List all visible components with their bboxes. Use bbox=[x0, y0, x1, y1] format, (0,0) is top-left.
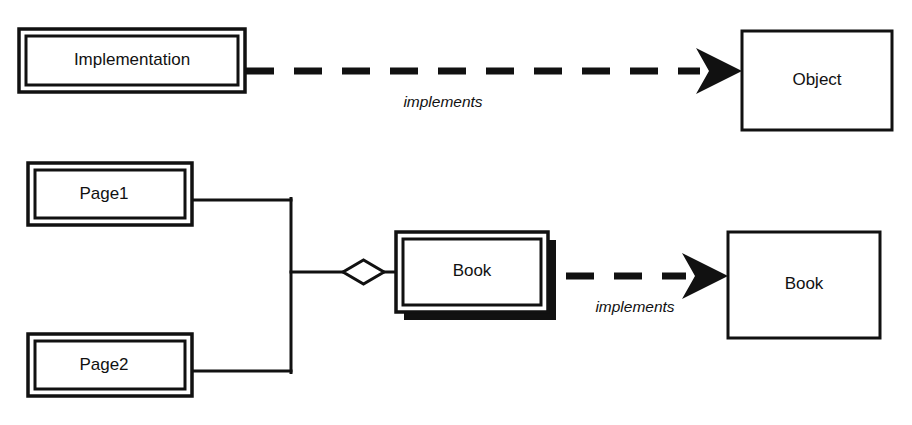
node-label-implementation: Implementation bbox=[74, 50, 190, 69]
solid-arrowhead-icon-bottom bbox=[682, 253, 728, 299]
node-implementation[interactable]: Implementation bbox=[19, 29, 245, 92]
node-label-book-interface: Book bbox=[785, 274, 824, 293]
node-label-book-implementation: Book bbox=[453, 261, 492, 280]
edge-aggregation-connectors bbox=[192, 199, 396, 373]
node-object[interactable]: Object bbox=[742, 31, 892, 130]
node-book-interface[interactable]: Book bbox=[728, 232, 880, 338]
node-label-page2: Page2 bbox=[79, 355, 128, 374]
node-page1[interactable]: Page1 bbox=[28, 163, 192, 225]
edge-label-implements-top: implements bbox=[403, 93, 482, 110]
node-book-implementation[interactable]: Book bbox=[396, 232, 556, 320]
open-diamond-aggregation-icon bbox=[343, 260, 384, 284]
solid-arrowhead-icon bbox=[696, 48, 742, 94]
diagram-svg: implements Implementation Object bbox=[0, 0, 912, 425]
edge-implements-top: implements bbox=[246, 48, 742, 110]
node-page2[interactable]: Page2 bbox=[28, 334, 192, 396]
node-label-object: Object bbox=[792, 70, 841, 89]
edge-label-implements-bottom: implements bbox=[595, 298, 674, 315]
diagram-canvas: implements Implementation Object bbox=[0, 0, 912, 425]
node-label-page1: Page1 bbox=[79, 184, 128, 203]
edge-implements-bottom: implements bbox=[566, 253, 728, 315]
